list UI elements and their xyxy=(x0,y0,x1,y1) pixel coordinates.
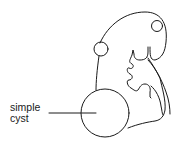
label-line-2: cyst xyxy=(10,113,40,124)
small-cyst-left xyxy=(94,42,108,56)
ureter xyxy=(148,58,170,115)
small-cyst-right xyxy=(152,21,163,32)
kidney-diagram xyxy=(0,0,194,148)
renal-calyces xyxy=(127,47,151,98)
simple-cyst-label: simple cyst xyxy=(10,102,40,124)
